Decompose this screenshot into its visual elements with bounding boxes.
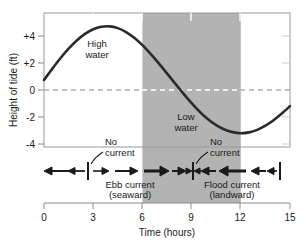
no-current-left-leader	[91, 152, 103, 164]
y-tick-label-2: +2	[24, 58, 36, 69]
x-tick-label-9: 9	[188, 212, 194, 223]
y-tick-label-neg4: -4	[26, 139, 35, 150]
no-current-right-label-line2: current	[210, 147, 240, 158]
arrow-left-a	[44, 167, 70, 175]
no-current-left-label-line1: No	[105, 136, 117, 147]
x-tick-label-0: 0	[41, 212, 47, 223]
x-axis-title: Time (hours)	[139, 227, 195, 238]
x-axis-ticks	[44, 203, 290, 209]
flood-arrow-4	[251, 167, 266, 175]
no-current-left-label-line2: current	[105, 147, 135, 158]
y-tick-label-neg2: -2	[26, 112, 35, 123]
pre-slack-arrows	[44, 167, 85, 175]
arrow-left-b	[68, 168, 85, 175]
no-current-right-label-line1: No	[210, 136, 222, 147]
high-water-label-line2: water	[84, 49, 108, 60]
low-water-label-line1: Low	[177, 111, 195, 122]
flood-arrow-5	[267, 168, 277, 175]
x-tick-label-15: 15	[284, 212, 296, 223]
ebb-arrow-1	[93, 168, 109, 175]
high-water-label-line1: High	[87, 38, 107, 49]
x-tick-label-6: 6	[139, 212, 145, 223]
flood-current-label-line2: (landward)	[210, 189, 255, 200]
tide-chart-figure: +4 +2 0 -2 -4 Height of tide (ft) High w…	[0, 0, 306, 242]
y-tick-label-0: 0	[29, 85, 35, 96]
y-axis-ticks	[38, 36, 44, 144]
low-water-label-line2: water	[173, 122, 197, 133]
y-tick-label-4: +4	[24, 31, 36, 42]
x-tick-label-12: 12	[234, 212, 246, 223]
ebb-arrow-2	[115, 167, 138, 175]
x-tick-label-3: 3	[90, 212, 96, 223]
tide-chart-svg: +4 +2 0 -2 -4 Height of tide (ft) High w…	[0, 0, 306, 242]
ebb-current-label-line2: (seaward)	[109, 189, 151, 200]
y-axis-title: Height of tide (ft)	[8, 53, 19, 127]
